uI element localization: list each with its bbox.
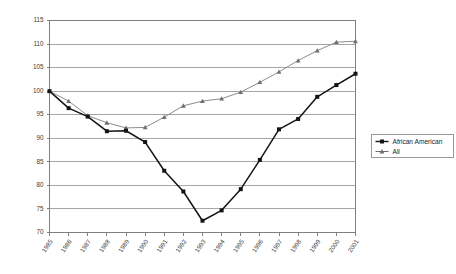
data-point-marker	[354, 72, 358, 76]
data-point-marker	[239, 187, 243, 191]
y-tick-label: 100	[33, 87, 44, 94]
y-tick-label: 90	[36, 134, 44, 141]
data-point-marker	[86, 115, 90, 119]
y-tick-label: 105	[33, 63, 44, 70]
y-tick-label: 110	[33, 40, 44, 47]
legend-label: All	[393, 148, 401, 155]
chart-container: 707580859095100105110115 198519861987198…	[0, 0, 456, 274]
y-tick-label: 115	[33, 16, 44, 23]
line-chart: 707580859095100105110115 198519861987198…	[0, 0, 456, 274]
data-point-marker	[334, 83, 338, 87]
y-tick-label: 75	[36, 205, 44, 212]
data-point-marker	[48, 89, 52, 93]
data-point-marker	[181, 190, 185, 194]
data-point-marker	[315, 95, 319, 99]
chart-legend[interactable]: African AmericanAll	[372, 135, 454, 158]
legend-marker	[380, 140, 384, 144]
data-point-marker	[143, 140, 147, 144]
data-point-marker	[296, 117, 300, 121]
data-point-marker	[124, 129, 128, 133]
data-point-marker	[105, 129, 109, 133]
y-tick-label: 80	[36, 181, 44, 188]
data-point-marker	[220, 208, 224, 212]
data-point-marker	[258, 158, 262, 162]
y-tick-label: 85	[36, 158, 44, 165]
data-point-marker	[162, 169, 166, 173]
data-point-marker	[67, 106, 71, 110]
y-tick-label: 95	[36, 110, 44, 117]
y-tick-label: 70	[36, 228, 44, 235]
data-point-marker	[277, 127, 281, 131]
legend-label: African American	[393, 138, 443, 145]
data-point-marker	[201, 219, 205, 223]
